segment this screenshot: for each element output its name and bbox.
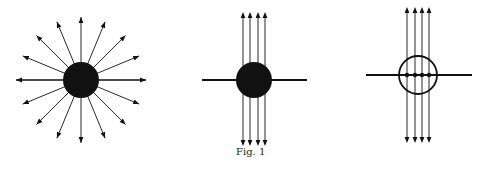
- charge-dot: [405, 73, 409, 77]
- arrowhead-up-icon: [256, 12, 261, 18]
- arrowhead-icon: [101, 132, 106, 138]
- arrowhead-icon: [57, 132, 62, 138]
- diagram-canvas: [0, 0, 486, 170]
- arrowhead-down-icon: [413, 137, 418, 143]
- arrowhead-icon: [79, 137, 84, 143]
- arrowhead-down-icon: [420, 137, 425, 143]
- charge-dot: [427, 73, 431, 77]
- arrowhead-icon: [133, 100, 139, 105]
- arrowhead-icon: [16, 78, 22, 83]
- arrowhead-up-icon: [248, 12, 253, 18]
- arrowhead-icon: [57, 22, 62, 28]
- arrowhead-up-icon: [420, 7, 425, 13]
- arrowhead-icon: [101, 22, 106, 28]
- figure-caption: Fig. 1: [236, 146, 265, 157]
- arrowhead-icon: [140, 78, 146, 83]
- arrowhead-up-icon: [263, 12, 268, 18]
- arrowhead-down-icon: [405, 137, 410, 143]
- charge-dot: [420, 73, 424, 77]
- arrowhead-down-icon: [427, 137, 432, 143]
- arrowhead-icon: [79, 17, 84, 23]
- arrowhead-up-icon: [405, 7, 410, 13]
- arrowhead-up-icon: [241, 12, 246, 18]
- arrowhead-up-icon: [427, 7, 432, 13]
- arrowhead-icon: [23, 56, 29, 61]
- charge-dot: [413, 73, 417, 77]
- solid-sphere: [236, 62, 272, 98]
- arrowhead-icon: [23, 100, 29, 105]
- arrowhead-up-icon: [413, 7, 418, 13]
- solid-sphere: [63, 62, 99, 98]
- figure: Fig. 1: [0, 0, 486, 170]
- arrowhead-icon: [133, 56, 139, 61]
